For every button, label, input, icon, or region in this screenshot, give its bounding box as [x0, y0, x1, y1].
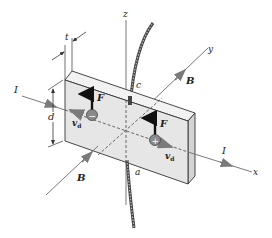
slab-side-face	[188, 113, 195, 184]
positive-sign: +	[152, 136, 160, 146]
field-label-upper: B	[185, 75, 194, 86]
point-a-label: a	[135, 167, 140, 177]
width-extension-bottom	[48, 141, 63, 147]
negative-sign: −	[89, 111, 97, 121]
current-label-left: I	[13, 84, 19, 95]
force-label-negative: F	[96, 92, 105, 103]
current-label-right: I	[221, 145, 227, 156]
force-label-positive: F	[159, 118, 168, 129]
point-c-label: c	[136, 80, 141, 90]
current-line-left	[22, 96, 65, 110]
width-label: d	[48, 111, 54, 122]
hall-effect-diagram: z y c a I I x B B − F vd + F vd t	[0, 0, 272, 238]
contact-c	[128, 96, 132, 105]
z-axis-label: z	[122, 9, 128, 19]
y-axis-label: y	[207, 44, 214, 54]
width-extension-top	[48, 80, 63, 90]
thickness-label: t	[65, 32, 69, 42]
x-axis-label: x	[253, 167, 258, 177]
field-label-lower: B	[76, 172, 85, 183]
